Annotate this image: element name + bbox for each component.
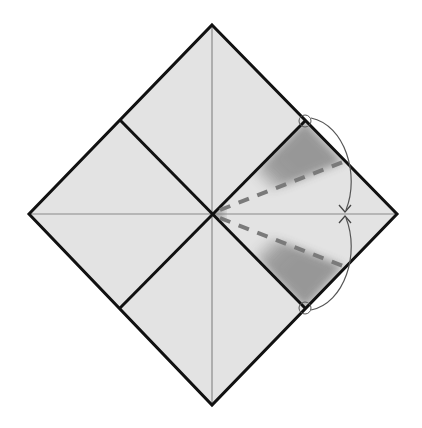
origami-diagram: [0, 0, 422, 428]
diagram-canvas: [0, 0, 422, 428]
